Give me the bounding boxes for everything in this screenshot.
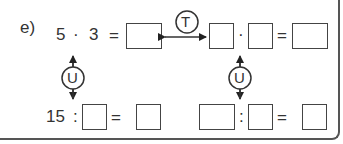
transform-label: T <box>181 12 190 32</box>
arrows-diagram <box>0 0 343 144</box>
inverse-label-right: U <box>234 68 245 88</box>
inverse-label-left: U <box>67 68 78 88</box>
